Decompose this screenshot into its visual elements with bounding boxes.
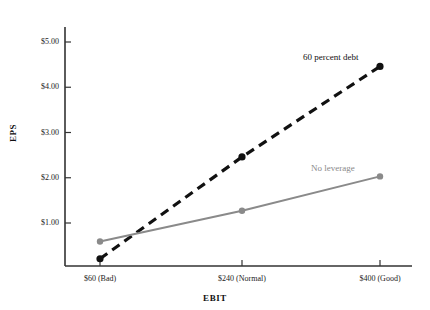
x-axis-tick-label: $60 (Bad) bbox=[84, 274, 116, 283]
series-label-60-percent-debt: 60 percent debt bbox=[303, 52, 358, 62]
x-axis-tick-label: $400 (Good) bbox=[359, 274, 400, 283]
y-axis-tick-label: $1.00 bbox=[19, 218, 59, 227]
y-axis-title: EPS bbox=[8, 122, 18, 144]
plot-area bbox=[0, 0, 430, 310]
data-point bbox=[96, 255, 103, 262]
y-axis-tick-label: $2.00 bbox=[19, 173, 59, 182]
series-label-no-leverage: No leverage bbox=[311, 163, 355, 173]
data-point bbox=[377, 173, 383, 179]
y-axis-tick-label: $3.00 bbox=[19, 128, 59, 137]
axis-ticks bbox=[65, 42, 380, 266]
data-point bbox=[97, 238, 103, 244]
y-axis-tick-label: $4.00 bbox=[19, 82, 59, 91]
data-point bbox=[376, 63, 383, 70]
eps-ebit-chart: EPS EBIT $5.00$4.00$3.00$2.00$1.00 $60 (… bbox=[0, 0, 430, 310]
data-point bbox=[239, 208, 245, 214]
data-point bbox=[238, 153, 245, 160]
axes bbox=[65, 27, 412, 266]
x-axis-title: EBIT bbox=[0, 293, 430, 303]
x-axis-tick-label: $240 (Normal) bbox=[218, 274, 266, 283]
y-axis-tick-label: $5.00 bbox=[19, 37, 59, 46]
